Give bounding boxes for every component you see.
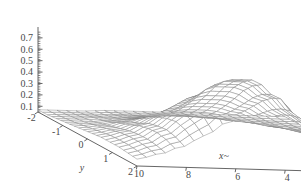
y-axis-tick-label: -1 [52,126,60,137]
z-axis-tick-label: 0.5 [21,55,34,66]
x-axis-tick-label: 8 [186,169,191,180]
z-axis-tick-label: 0.3 [21,78,34,89]
y-axis-tick [84,139,87,141]
y-axis-tick-label: 2 [128,166,133,177]
surface-plot-canvas: 0.10.20.30.40.50.60.7-2-1012y1086420x~ [0,0,301,196]
x-axis-tick-label: 10 [134,168,144,179]
surface-plot-figure: 0.10.20.30.40.50.60.7-2-1012y1086420x~ [0,0,301,196]
y-axis-tick-label: -2 [27,112,35,123]
z-axis-tick-label: 0.6 [21,44,34,55]
z-axis-tick-label: 0.1 [21,101,34,112]
y-axis-tick-label: 1 [103,153,108,164]
z-axis-tick-label: 0.2 [21,89,34,100]
y-axis-tick-label: 0 [79,139,84,150]
x-axis-title: x~ [218,150,229,161]
x-axis-tick-label: 4 [285,172,290,183]
z-axis-tick-label: 0.7 [21,32,34,43]
z-axis-tick-label: 0.4 [21,66,34,77]
y-axis-tick [109,153,112,155]
surface-mesh [38,80,301,168]
x-axis-tick-label: 6 [235,171,240,182]
x-axis-line [137,166,301,173]
y-axis-title: y [79,162,85,173]
